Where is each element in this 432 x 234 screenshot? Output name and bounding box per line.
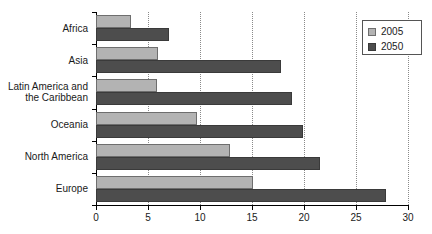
bar-2005-north-america — [96, 144, 230, 157]
bar-chart: 051015202530 AfricaAsiaLatin America and… — [0, 0, 432, 234]
gridline — [356, 12, 357, 205]
category-label-line: North America — [0, 151, 88, 162]
y-axis-tick — [92, 12, 97, 13]
category-label-0: Africa — [0, 23, 88, 34]
category-label-line: Latin America and — [0, 81, 88, 92]
bar-2005-europe — [96, 176, 253, 189]
y-axis-tick — [92, 76, 97, 77]
bar-2005-africa — [96, 15, 131, 28]
x-axis-tick — [200, 205, 201, 210]
bar-2050-oceania — [96, 125, 303, 138]
x-axis-tick-label: 10 — [185, 212, 215, 223]
category-label-line: Europe — [0, 183, 88, 194]
x-axis-tick-label: 15 — [237, 212, 267, 223]
bar-2050-latin-america-and-the-caribbean — [96, 92, 292, 105]
y-axis-tick — [92, 109, 97, 110]
x-axis-tick — [252, 205, 253, 210]
category-label-line: the Caribbean — [0, 92, 88, 103]
x-axis-tick — [304, 205, 305, 210]
x-axis-tick-label: 5 — [133, 212, 163, 223]
x-axis-tick — [148, 205, 149, 210]
category-label-2: Latin America andthe Caribbean — [0, 81, 88, 103]
bar-2050-europe — [96, 189, 386, 202]
y-axis-tick — [92, 141, 97, 142]
bar-2050-africa — [96, 28, 169, 41]
gridline — [304, 12, 305, 205]
bar-2005-asia — [96, 47, 158, 60]
bar-2050-asia — [96, 60, 281, 73]
category-label-5: Europe — [0, 183, 88, 194]
legend-label-2050: 2050 — [381, 41, 403, 52]
category-label-3: Oceania — [0, 119, 88, 130]
legend-item-2050: 2050 — [368, 40, 417, 53]
category-label-4: North America — [0, 151, 88, 162]
legend-item-2005: 2005 — [368, 25, 417, 38]
bar-2050-north-america — [96, 157, 320, 170]
legend-label-2005: 2005 — [381, 26, 403, 37]
x-axis-tick — [408, 205, 409, 210]
category-label-line: Africa — [0, 23, 88, 34]
bar-2005-latin-america-and-the-caribbean — [96, 79, 157, 92]
x-axis-tick — [96, 205, 97, 210]
x-axis-tick-label: 20 — [289, 212, 319, 223]
x-axis-tick-label: 25 — [341, 212, 371, 223]
y-axis-tick — [92, 173, 97, 174]
legend: 2005 2050 — [362, 20, 422, 55]
x-axis-tick-label: 30 — [393, 212, 423, 223]
bar-2005-oceania — [96, 112, 197, 125]
x-axis-tick-label: 0 — [81, 212, 111, 223]
category-label-line: Asia — [0, 55, 88, 66]
y-axis-tick — [92, 44, 97, 45]
legend-swatch-2005 — [368, 28, 376, 36]
x-axis-tick — [356, 205, 357, 210]
legend-swatch-2050 — [368, 43, 376, 51]
category-label-1: Asia — [0, 55, 88, 66]
category-label-line: Oceania — [0, 119, 88, 130]
